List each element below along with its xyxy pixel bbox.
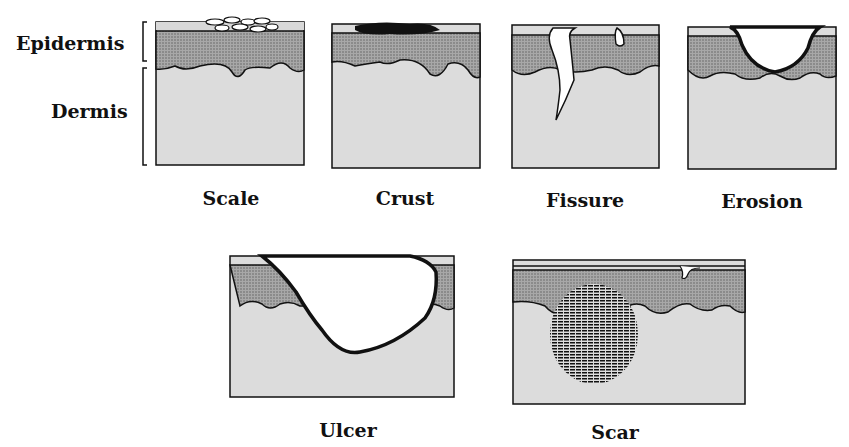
ulcer-label: Ulcer	[313, 419, 383, 441]
crust-label: Crust	[370, 187, 440, 209]
epidermis-bracket	[143, 22, 147, 165]
fissure-panel	[512, 25, 659, 168]
erosion-label: Erosion	[712, 190, 812, 212]
scar-label: Scar	[580, 421, 650, 443]
scale-label: Scale	[196, 187, 266, 209]
epidermis-label: Epidermis	[16, 32, 124, 54]
scale-panel	[156, 17, 304, 165]
erosion-panel	[688, 27, 836, 169]
fissure-label: Fissure	[540, 189, 630, 211]
dermis-label: Dermis	[51, 100, 128, 122]
crust-panel	[332, 22, 480, 168]
scar-panel	[513, 260, 745, 404]
ulcer-panel	[230, 256, 454, 397]
skin-lesions-diagram	[0, 0, 849, 447]
